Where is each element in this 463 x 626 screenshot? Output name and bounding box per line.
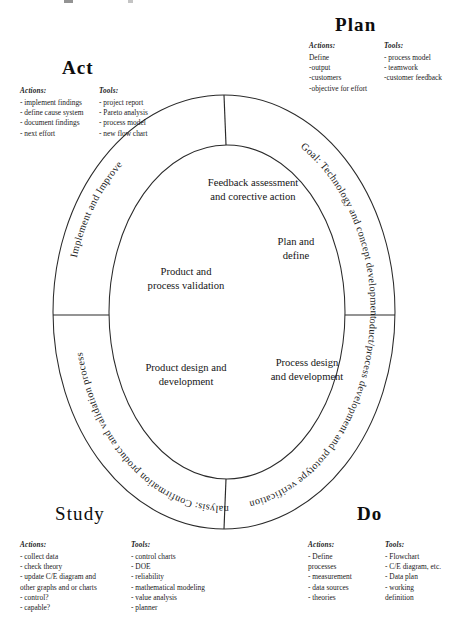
list-item: -output [309,63,367,73]
quadrant-title-do: Do [357,503,382,525]
list-item: - Data plan [385,572,441,582]
do-actions-list: - Define processes - measurement - data … [308,552,352,603]
list-item: - Pareto analysis [99,108,148,118]
list-item: - working [385,583,441,593]
list-item: processes [308,562,352,572]
list-item: - document findings [20,118,83,128]
list-item: - planner [131,603,205,613]
list-item: - reliability [131,572,205,582]
study-tools-list: - control charts - DOE - reliability - m… [131,552,205,614]
do-tools-header: Tools: [385,540,441,550]
inner-label-feedback-line2: and corective action [210,191,296,202]
list-item: - control? [20,593,97,603]
divider-bottom [224,479,226,529]
list-item: - DOE [131,562,205,572]
list-item: definition [385,593,441,603]
act-actions-block: Actions: - implement findings - define c… [20,86,83,139]
list-item: - value analysis [131,593,205,603]
do-actions-header: Actions: [308,540,352,550]
list-item: - new flow chart [99,129,148,139]
list-item: - Define [308,552,352,562]
plan-tools-block: Tools: - process model - teamwork -custo… [384,41,442,84]
list-item: - process model [99,118,148,128]
inner-label-plan-line1: Plan and [278,236,315,247]
plan-actions-block: Actions: Define -output -customers -obje… [309,41,367,94]
list-item: - next effort [20,129,83,139]
do-tools-block: Tools: - Flowchart - C/E diagram, etc. -… [385,540,441,603]
inner-label-product-design-line1: Product design and [145,362,227,373]
quadrant-title-act: Act [62,57,94,79]
list-item: - mathematical modeling [131,583,205,593]
study-actions-header: Actions: [20,540,97,550]
list-item: - control charts [131,552,205,562]
list-item: - theories [308,593,352,603]
ring-label-plan: Goal: Technology and concept development [299,140,380,319]
study-tools-block: Tools: - control charts - DOE - reliabil… [131,540,205,614]
inner-label-process-design-line1: Process design [276,357,339,368]
plan-tools-list: - process model - teamwork -customer fee… [384,53,442,84]
study-tools-header: Tools: [131,540,205,550]
list-item: Define [309,53,367,63]
inner-label-feedback-line1: Feedback assessment [208,177,298,188]
plan-actions-list: Define -output -customers -objective for… [309,53,367,94]
plan-actions-header: Actions: [309,41,367,51]
divider-top [224,95,226,145]
list-item: - capable? [20,603,97,613]
list-item: other graphs and or charts [20,583,97,593]
inner-label-validation-line2: process validation [148,280,225,291]
do-tools-list: - Flowchart - C/E diagram, etc. - Data p… [385,552,441,603]
list-item: - teamwork [384,63,442,73]
inner-label-product-design-line2: development [159,376,214,387]
ring-label-study: Analysis: Confirmation product and valid… [0,0,229,515]
act-tools-block: Tools: - project report - Pareto analysi… [99,86,148,139]
inner-label-plan-line2: define [283,250,310,261]
outer-ring [53,95,395,529]
study-actions-list: - collect data - check theory - update C… [20,552,97,614]
list-item: - project report [99,98,148,108]
plan-tools-header: Tools: [384,41,442,51]
list-item: - data sources [308,583,352,593]
act-tools-header: Tools: [99,86,148,96]
act-actions-header: Actions: [20,86,83,96]
list-item: - define cause system [20,108,83,118]
do-actions-block: Actions: - Define processes - measuremen… [308,540,352,603]
list-item: - check theory [20,562,97,572]
act-tools-list: - project report - Pareto analysis - pro… [99,98,148,139]
quadrant-title-plan: Plan [335,14,376,36]
list-item: -objective for effort [309,84,367,94]
list-item: - update C/E diagram and [20,572,97,582]
list-item: - collect data [20,552,97,562]
study-actions-block: Actions: - collect data - check theory -… [20,540,97,614]
list-item: - process model [384,53,442,63]
list-item: -customer feedback [384,73,442,83]
list-item: - implement findings [20,98,83,108]
diagram-canvas: Implement and Improve Goal: Technology a… [0,0,463,626]
list-item: - Flowchart [385,552,441,562]
inner-label-process-design-line2: and development [271,371,344,382]
list-item: -customers [309,73,367,83]
list-item: - measurement [308,572,352,582]
ring-label-act: Implement and Improve [68,159,124,259]
list-item: - C/E diagram, etc. [385,562,441,572]
inner-label-validation-line1: Product and [161,266,213,277]
act-actions-list: - implement findings - define cause syst… [20,98,83,139]
quadrant-title-study: Study [55,503,105,525]
